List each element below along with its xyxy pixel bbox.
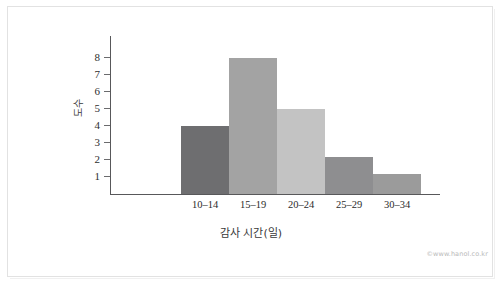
y-tick-label-8: 8 xyxy=(84,52,100,63)
watermark: ©www.hanol.co.kr xyxy=(426,250,488,258)
bar-30-34[interactable] xyxy=(373,174,421,194)
y-tick-8 xyxy=(104,57,110,58)
x-axis-title: 감사 시간(일) xyxy=(0,224,502,240)
y-axis-title: 도수 xyxy=(70,91,85,125)
y-tick-2 xyxy=(104,159,110,160)
y-tick-3 xyxy=(104,142,110,143)
y-tick-label-5: 5 xyxy=(84,103,100,114)
x-tick-label-30-34: 30–34 xyxy=(373,199,421,210)
y-axis-line xyxy=(110,36,111,195)
x-tick-label-20-24: 20–24 xyxy=(277,199,325,210)
x-tick-label-25-29: 25–29 xyxy=(325,199,373,210)
chart-page: 1 2 3 4 5 6 7 8 도수 10–14 15–19 20–24 25–… xyxy=(0,0,502,285)
y-tick-label-1: 1 xyxy=(84,171,100,182)
bar-10-14[interactable] xyxy=(181,126,229,194)
y-tick-4 xyxy=(104,125,110,126)
y-tick-label-6: 6 xyxy=(84,86,100,97)
y-tick-label-4: 4 xyxy=(84,120,100,131)
bar-20-24[interactable] xyxy=(277,109,325,194)
x-tick-label-10-14: 10–14 xyxy=(181,199,229,210)
y-tick-5 xyxy=(104,108,110,109)
x-tick-label-15-19: 15–19 xyxy=(229,199,277,210)
y-tick-6 xyxy=(104,91,110,92)
x-axis-line xyxy=(110,194,440,195)
y-tick-label-2: 2 xyxy=(84,154,100,165)
bar-15-19[interactable] xyxy=(229,58,277,194)
y-tick-label-3: 3 xyxy=(84,137,100,148)
bar-25-29[interactable] xyxy=(325,157,373,194)
y-tick-label-7: 7 xyxy=(84,69,100,80)
histogram-plot: 1 2 3 4 5 6 7 8 도수 10–14 15–19 20–24 25–… xyxy=(0,0,502,285)
y-tick-7 xyxy=(104,74,110,75)
y-tick-1 xyxy=(104,176,110,177)
